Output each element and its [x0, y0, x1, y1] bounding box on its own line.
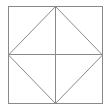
- square-diamond-diagram: [0, 0, 106, 109]
